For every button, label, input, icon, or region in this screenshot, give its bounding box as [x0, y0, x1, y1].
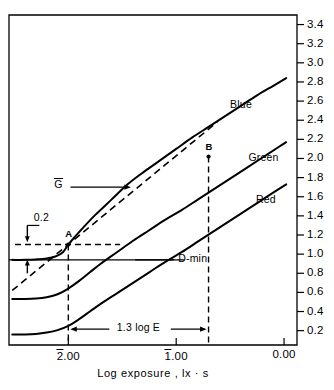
characteristic-curve-figure: 0.20.40.60.81.01.21.41.61.82.02.22.42.62… [0, 0, 334, 390]
d-min-label: D-min [178, 253, 207, 264]
y-tick-label: 1.0 [307, 248, 324, 260]
curve-label-blue: Blue [230, 99, 252, 110]
chart-svg [0, 0, 334, 390]
x-tick-label: 2.00 [57, 349, 80, 363]
marker-label-b: B [206, 142, 213, 152]
y-tick-label: 2.8 [307, 76, 324, 88]
y-tick-label: 3.0 [307, 57, 324, 69]
x-axis-title: Log exposure , lx · s [97, 368, 209, 379]
x-tick-label: 0.00 [272, 349, 295, 361]
y-tick-label: 0.2 [307, 325, 324, 337]
y-tick-label: 2.4 [307, 114, 324, 126]
x-tick-label: 1.00 [165, 349, 188, 363]
y-tick-label: 0.6 [307, 286, 324, 298]
marker-b [206, 154, 210, 158]
y-tick-label: 3.4 [307, 19, 324, 31]
y-tick-label: 3.2 [307, 38, 324, 50]
y-tick-label: 0.8 [307, 267, 324, 279]
x-tick-rest: .00 [171, 350, 188, 362]
y-tick-label: 1.8 [307, 172, 324, 184]
marker-label-a: A [65, 229, 72, 239]
y-tick-label: 2.0 [307, 152, 324, 164]
curve-label-red: Red [256, 194, 276, 205]
y-tick-label: 2.6 [307, 95, 324, 107]
log-e-span-label: 1.3 log E [117, 322, 160, 333]
y-tick-label: 1.2 [307, 229, 324, 241]
average-gradient-label: G [54, 178, 62, 190]
y-tick-label: 1.6 [307, 191, 324, 203]
g-overbar-text: G [54, 178, 62, 190]
marker-a [66, 242, 70, 246]
y-tick-label: 0.4 [307, 306, 324, 318]
y-tick-label: 2.2 [307, 133, 324, 145]
x-tick-rest: .00 [63, 350, 80, 362]
delta-density-label: 0.2 [34, 212, 49, 223]
curve-label-green: Green [248, 152, 278, 163]
y-tick-label: 1.4 [307, 210, 324, 222]
